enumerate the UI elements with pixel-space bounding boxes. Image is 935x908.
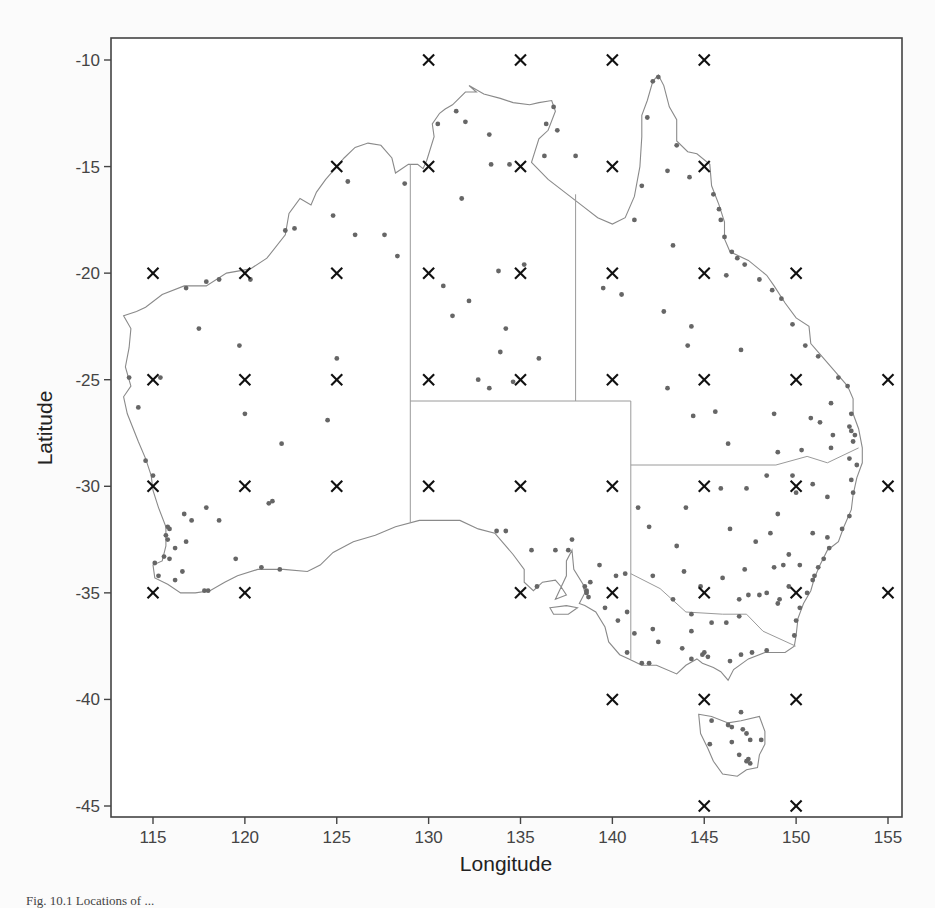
station-dot [535,584,540,589]
station-dot [625,650,630,655]
x-tick-label: 145 [690,828,718,847]
x-tick-label: 115 [139,828,166,847]
station-dot [775,512,780,517]
station-dot [849,411,854,416]
station-dot [503,529,508,534]
station-dot [553,548,558,553]
station-dot [511,379,516,384]
station-dot [797,605,802,610]
station-dot [292,226,297,231]
y-tick-label: -35 [75,584,100,603]
station-dot [671,597,676,602]
station-dot [779,296,784,301]
station-dot [742,567,747,572]
station-dot [827,546,832,551]
y-tick-label: -30 [75,477,100,496]
station-dot [853,433,858,438]
station-dot [764,648,769,653]
station-dot [847,424,852,429]
station-dot [259,565,264,570]
station-dot [722,235,727,240]
station-dot [494,529,499,534]
station-dot [127,375,132,380]
station-dot [345,179,350,184]
x-tick-label: 150 [782,828,810,847]
station-dot [189,518,194,523]
figure-caption: Fig. 10.1 Locations of ... [26,893,154,908]
station-dot [682,569,687,574]
station-dot [165,537,170,542]
station-dot [691,414,696,419]
station-dot [665,386,670,391]
station-dot [713,409,718,414]
station-dot [204,279,209,284]
station-dot [808,416,813,421]
station-dot [544,122,549,127]
station-dot [459,196,464,201]
station-dot [450,313,455,318]
station-dot [507,162,512,167]
station-dot [680,646,685,651]
station-dot [689,324,694,329]
y-tick-label: -15 [75,158,100,177]
station-dot [206,588,211,593]
y-tick-label: -20 [75,264,100,283]
station-dot [217,277,222,282]
station-dot [775,450,780,455]
station-dot [849,478,854,483]
station-dot [467,299,472,304]
station-dot [182,512,187,517]
station-dot [728,527,733,532]
station-dot [687,175,692,180]
station-dot [204,505,209,510]
station-dot [737,752,742,757]
station-dot [764,591,769,596]
station-dot [656,75,661,80]
station-dot [650,627,655,632]
station-dot [757,593,762,598]
station-dot [840,527,845,532]
station-dot [847,456,852,461]
station-dot [803,343,808,348]
station-dot [724,620,729,625]
station-dot [810,578,815,583]
station-dot [665,168,670,173]
station-dot [854,463,859,468]
station-dot [570,537,575,542]
station-dot [476,377,481,382]
station-dot [582,584,587,589]
station-dot [656,640,661,645]
station-dot [522,262,527,267]
station-dot [661,309,666,314]
station-dot [709,620,714,625]
station-dot [831,433,836,438]
station-dot [647,661,652,666]
station-dot [816,354,821,359]
station-dot [786,552,791,557]
station-dot [684,505,689,510]
station-dot [136,405,141,410]
station-dot [810,531,815,536]
station-dot [829,446,834,451]
x-tick-label: 125 [323,828,351,847]
station-dot [711,192,716,197]
station-dot [639,661,644,666]
station-dot [233,556,238,561]
station-dot [555,128,560,133]
station-dot [143,458,148,463]
station-dot [812,573,817,578]
station-dot [184,539,189,544]
station-dot [729,249,734,254]
station-dot [737,614,742,619]
station-dot [718,218,723,223]
station-dot [353,232,358,237]
y-tick-label: -40 [75,690,100,709]
y-tick-label: -45 [75,797,100,816]
station-dot [729,725,734,730]
station-dot [180,569,185,574]
station-dot [689,657,694,662]
station-dot [217,518,222,523]
station-dot [707,742,712,747]
station-dot [790,322,795,327]
station-dot [772,411,777,416]
